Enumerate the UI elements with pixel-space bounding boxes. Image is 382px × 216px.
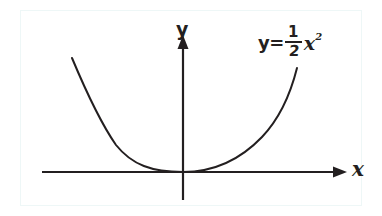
equation-exponent: 2 bbox=[315, 32, 322, 42]
equation-variable: x bbox=[304, 34, 315, 53]
equation-label: y= 1 2 x 2 bbox=[258, 26, 322, 60]
parabola-figure: y x y= 1 2 x 2 bbox=[0, 0, 382, 216]
equation-fraction: 1 2 bbox=[285, 25, 302, 59]
y-axis-label: y bbox=[176, 20, 188, 39]
x-axis-label: x bbox=[352, 159, 364, 179]
parabola-curve bbox=[72, 58, 297, 172]
graph-canvas bbox=[0, 0, 382, 216]
equation-lhs: y= bbox=[258, 34, 284, 52]
fraction-numerator: 1 bbox=[288, 25, 298, 41]
fraction-denominator: 2 bbox=[288, 43, 300, 59]
x-axis-arrow-icon bbox=[333, 167, 347, 178]
